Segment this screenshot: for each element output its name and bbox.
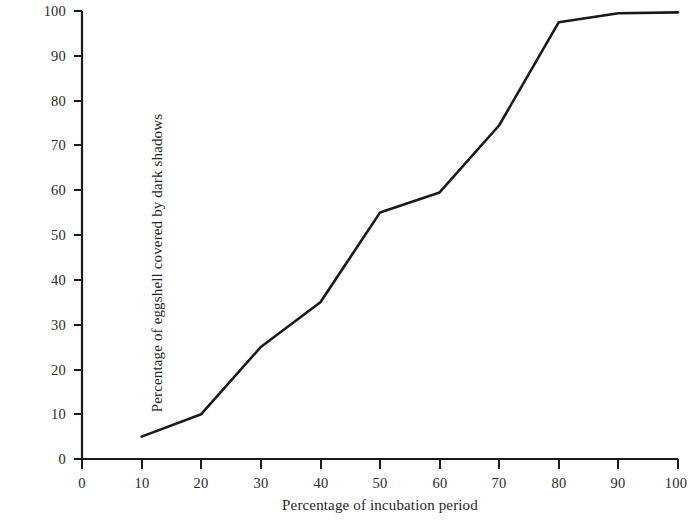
y-tick-label-60: 60 xyxy=(20,182,66,199)
x-tick-label-100: 100 xyxy=(665,475,687,492)
chart-plot-area xyxy=(0,0,690,525)
x-tick-label-70: 70 xyxy=(492,475,507,492)
y-tick-label-20: 20 xyxy=(20,362,66,379)
y-tick-label-50: 50 xyxy=(20,227,66,244)
x-tick-label-10: 10 xyxy=(135,475,150,492)
axes xyxy=(82,11,678,459)
y-tick-label-40: 40 xyxy=(20,272,66,289)
y-tick-label-100: 100 xyxy=(20,3,66,20)
x-tick-label-90: 90 xyxy=(611,475,626,492)
y-tick-label-90: 90 xyxy=(20,48,66,65)
x-tick-marks xyxy=(82,459,678,469)
x-tick-label-40: 40 xyxy=(314,475,329,492)
y-tick-label-30: 30 xyxy=(20,317,66,334)
data-series-line xyxy=(142,12,678,436)
y-tick-marks xyxy=(74,11,82,459)
x-tick-label-50: 50 xyxy=(373,475,388,492)
x-tick-label-60: 60 xyxy=(433,475,448,492)
y-axis-title: Percentage of eggshell covered by dark s… xyxy=(149,113,166,411)
x-tick-label-80: 80 xyxy=(552,475,567,492)
x-axis-title: Percentage of incubation period xyxy=(282,497,478,514)
y-tick-label-10: 10 xyxy=(20,406,66,423)
x-tick-label-20: 20 xyxy=(194,475,209,492)
x-tick-label-30: 30 xyxy=(254,475,269,492)
line-chart-figure: 100 90 80 70 60 50 40 30 20 10 0 0 10 20… xyxy=(0,0,690,525)
y-tick-label-70: 70 xyxy=(20,137,66,154)
y-tick-label-80: 80 xyxy=(20,93,66,110)
y-tick-label-0: 0 xyxy=(20,451,66,468)
x-tick-label-0: 0 xyxy=(78,475,85,492)
